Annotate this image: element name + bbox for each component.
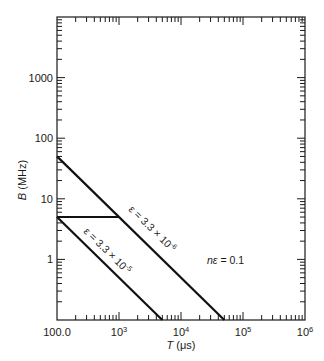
series-line [57,156,224,320]
plot-frame [57,17,305,320]
annotation-n-epsilon: nε = 0.1 [207,254,244,266]
y-tick-label: 1000 [29,72,53,84]
y-tick-labels: 1101001000 [29,72,53,266]
x-tick-label: 106 [297,325,313,338]
series-label: ε = 3.3 × 10-6 [127,203,179,254]
axis-ticks [57,17,305,320]
y-axis-label: B (MHz) [16,160,28,200]
series-labels: ε = 3.3 × 10-6ε = 3.3 × 10-5 [82,203,179,276]
x-tick-label: 104 [173,325,189,338]
y-tick-label: 1 [47,253,53,265]
y-tick-label: 100 [35,132,53,144]
x-tick-label: 100.0 [43,326,71,338]
x-tick-label: 103 [111,325,127,338]
y-tick-label: 10 [41,193,53,205]
log-log-chart: 100.0103104105106 1101001000 ε = 3.3 × 1… [0,0,324,361]
data-lines [57,156,224,320]
x-tick-label: 105 [235,325,251,338]
x-tick-labels: 100.0103104105106 [43,325,313,338]
series-label: ε = 3.3 × 10-5 [82,225,134,276]
series-line [57,217,162,320]
x-axis-label: T (μs) [167,339,196,351]
